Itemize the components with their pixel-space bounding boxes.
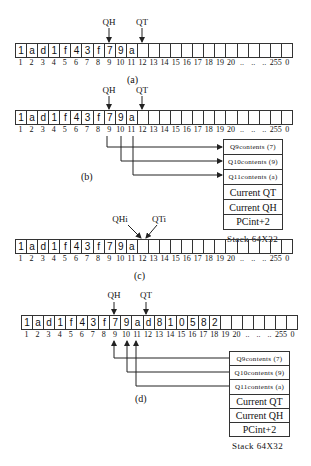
index-label: 14 (165, 330, 176, 340)
cell: 1 (16, 240, 27, 253)
index-row-d: 1234567891011121314151617181920......255… (21, 330, 298, 340)
caption-b: (b) (81, 171, 93, 182)
index-label: 7 (81, 58, 92, 68)
cell (171, 44, 182, 57)
cell: 3 (82, 44, 93, 57)
cell (160, 240, 171, 253)
cell (271, 240, 282, 253)
index-label: 4 (54, 330, 65, 340)
index-label: 20 (225, 254, 236, 264)
stack-row: Q11contents (a) (224, 170, 282, 185)
cell (287, 316, 297, 329)
cell (226, 111, 237, 124)
index-label: 2 (26, 125, 37, 135)
caption-c: (c) (134, 270, 145, 281)
index-label: 12 (143, 330, 154, 340)
cell: 4 (71, 44, 82, 57)
index-label: 7 (87, 330, 98, 340)
index-label: 1 (21, 330, 32, 340)
cell (138, 111, 149, 124)
index-label: 9 (104, 125, 115, 135)
index-label: 20 (231, 330, 242, 340)
index-label: 5 (59, 58, 70, 68)
cell: d (38, 44, 49, 57)
cell (271, 44, 282, 57)
index-label: 17 (192, 125, 203, 135)
index-label: 19 (214, 58, 225, 68)
index-label: 1 (15, 58, 26, 68)
index-label: .. (237, 125, 248, 135)
index-label: 5 (59, 254, 70, 264)
stack-row: Q10contents (9) (230, 366, 289, 380)
stack-row: Q9contents (7) (230, 352, 289, 366)
index-label: 15 (170, 58, 181, 68)
cell (149, 44, 160, 57)
index-label: 8 (93, 254, 104, 264)
stack-row: Current QH (230, 409, 289, 423)
index-label: 13 (154, 330, 165, 340)
cell: f (94, 44, 105, 57)
index-label: .. (259, 125, 270, 135)
qt-pointer-label-d: QT (136, 290, 156, 300)
index-label: 2 (26, 58, 37, 68)
index-label: 9 (104, 58, 115, 68)
qh-pointer-label-a: QH (99, 17, 119, 27)
index-label: 10 (115, 125, 126, 135)
cell (193, 240, 204, 253)
queue-array-b: 1 a d 1 f 4 3 f 7 9 a (15, 110, 293, 125)
cell: 1 (49, 111, 60, 124)
index-label: 18 (209, 330, 220, 340)
index-row-a: 1234567891011121314151617181920......255… (15, 58, 293, 68)
cell (282, 111, 292, 124)
index-label: 255 (275, 330, 287, 340)
index-label: 2 (26, 254, 37, 264)
cell (276, 316, 287, 329)
index-label: 13 (148, 58, 159, 68)
cell (238, 240, 249, 253)
index-label: 15 (170, 254, 181, 264)
index-label: 1 (15, 254, 26, 264)
cell: 7 (110, 316, 121, 329)
cell (149, 240, 160, 253)
index-label: 0 (282, 125, 293, 135)
index-label: 16 (181, 254, 192, 264)
index-label: 5 (65, 330, 76, 340)
qti-pointer-label: QTi (149, 214, 169, 224)
cell: d (144, 316, 155, 329)
cell: 1 (49, 44, 60, 57)
index-label: 3 (37, 125, 48, 135)
index-label: 10 (120, 330, 131, 340)
cell: f (60, 44, 71, 57)
cell: a (127, 44, 138, 57)
cell: 8 (199, 316, 210, 329)
queue-array-d: 1 a d 1 f 4 3 f 7 9 a d 8 1 0 5 8 2 (21, 315, 298, 330)
index-label: 11 (131, 330, 142, 340)
index-label: 17 (192, 58, 203, 68)
index-label: 4 (48, 125, 59, 135)
index-label: 8 (98, 330, 109, 340)
index-label: .. (259, 254, 270, 264)
cell (171, 111, 182, 124)
index-label: 0 (282, 58, 293, 68)
cell (260, 44, 271, 57)
index-label: 16 (181, 125, 192, 135)
index-label: 6 (76, 330, 87, 340)
index-label: .. (237, 254, 248, 264)
cell: f (94, 240, 105, 253)
cell (204, 111, 215, 124)
cell (260, 111, 271, 124)
stack-b: Q9contents (7) Q10contents (9) Q11conten… (223, 139, 283, 230)
cell (260, 240, 271, 253)
cell: f (66, 316, 77, 329)
stack-row: Current QT (230, 395, 289, 409)
cell: 7 (105, 44, 116, 57)
cell (282, 44, 292, 57)
index-label: .. (259, 58, 270, 68)
stack-row: Q10contents (9) (224, 155, 282, 170)
stack-row: Current QH (224, 200, 282, 215)
cell (238, 111, 249, 124)
cell: 3 (82, 111, 93, 124)
cell: a (132, 316, 143, 329)
cell (226, 44, 237, 57)
index-label: 14 (159, 125, 170, 135)
